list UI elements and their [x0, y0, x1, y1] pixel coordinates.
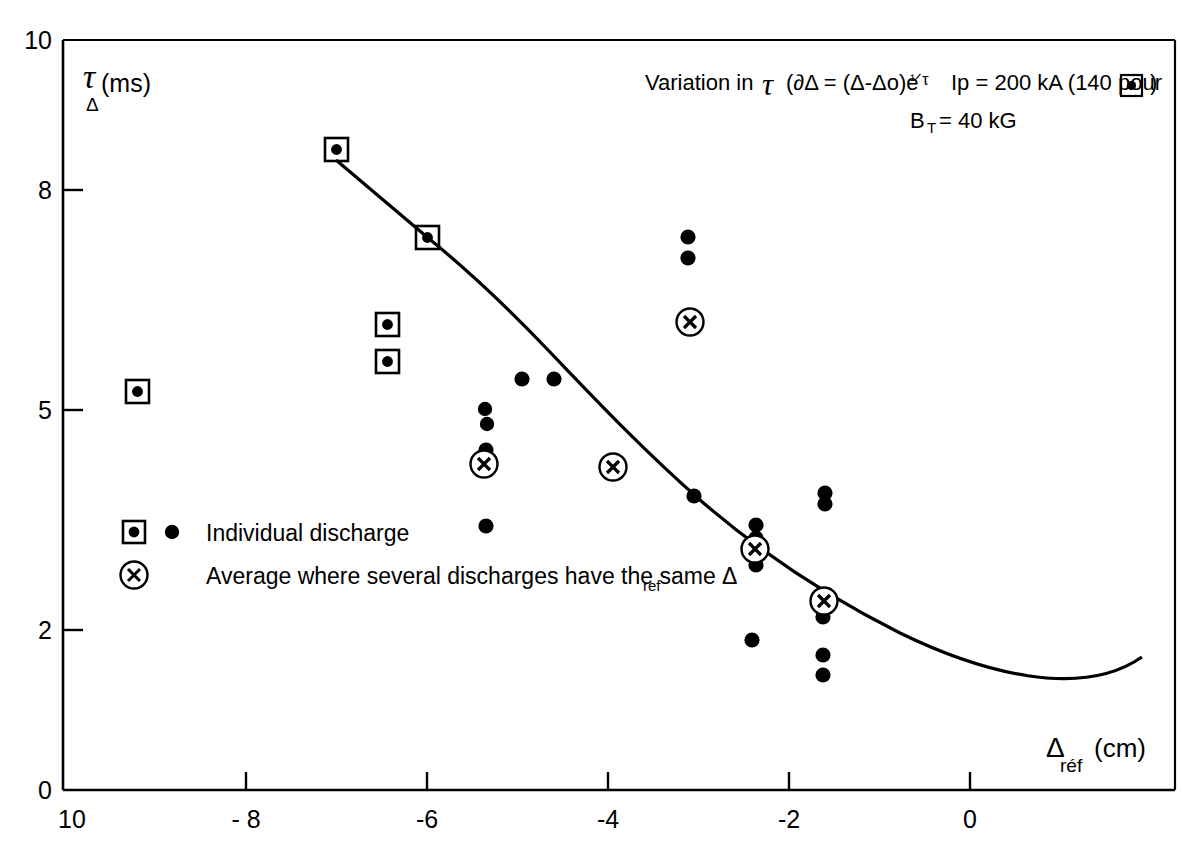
y-tick-label-10: 10 [24, 26, 52, 54]
annotation-ip-close: ) [1150, 70, 1157, 95]
x-tick-label-minus2: -2 [778, 805, 800, 833]
x-axis-title-unit: (cm) [1094, 733, 1146, 763]
data-point-dot [815, 647, 830, 662]
data-point-circle-x [742, 536, 769, 563]
y-axis-title-symbol: τ [83, 58, 97, 95]
y-tick-label-5: 5 [38, 396, 52, 424]
square-dot-icon-dot [1127, 81, 1136, 90]
data-point-circle-x [677, 309, 704, 336]
x-tick-label-minus6: -6 [416, 805, 438, 833]
data-point-dot [748, 517, 763, 532]
data-point-circle-x [471, 451, 498, 478]
data-point-dot [514, 371, 529, 386]
annotation-title: Variation in [645, 70, 753, 95]
annotation-exponent: ¹ᐟτ [910, 71, 929, 88]
x-tick-label-minus8: - 8 [231, 805, 260, 833]
x-tick-label-minus10: 10 [58, 805, 86, 833]
y-tick-label-8: 8 [38, 176, 52, 204]
annotation-bt-value: = 40 kG [939, 108, 1017, 133]
data-point-dot [680, 229, 695, 244]
annotation-formula: (∂Δ = (Δ-Δo)e [786, 70, 919, 95]
y-axis-title-subscript: Δ [86, 94, 99, 115]
annotation-tau-symbol: τ [762, 67, 775, 102]
legend-square-dot-icon-dot [129, 527, 140, 538]
x-tick-label-zero: 0 [963, 805, 977, 833]
legend-dot-icon [165, 525, 179, 539]
scatter-chart: 10 8 5 2 0 10 - 8 -6 -4 -2 0 τ (ms) Δ Δ … [0, 0, 1182, 853]
data-point-dot [815, 667, 830, 682]
data-point-circle-x [600, 454, 627, 481]
data-point-dot [478, 518, 493, 533]
data-point-dot [744, 632, 759, 647]
legend-label-individual-discharge: Individual discharge [206, 520, 409, 546]
annotation-bt-subscript: T [927, 119, 936, 136]
data-point-dot [817, 496, 832, 511]
data-point-dot [680, 250, 695, 265]
chart-root: 10 8 5 2 0 10 - 8 -6 -4 -2 0 τ (ms) Δ Δ … [0, 0, 1182, 853]
data-point-dot [478, 402, 492, 416]
data-point-dot [686, 488, 701, 503]
annotation-bt-prefix: B [910, 108, 925, 133]
y-axis-title-unit: (ms) [101, 69, 151, 97]
data-point-circle-x [811, 588, 838, 615]
x-tick-label-minus4: -4 [597, 805, 619, 833]
x-axis-title-subscript: réf [1060, 755, 1083, 776]
data-point-dot [480, 417, 494, 431]
legend-label-average-subscript: ref [643, 577, 661, 594]
y-tick-label-2: 2 [38, 616, 52, 644]
y-tick-label-0: 0 [38, 776, 52, 804]
data-point-dot [546, 371, 561, 386]
